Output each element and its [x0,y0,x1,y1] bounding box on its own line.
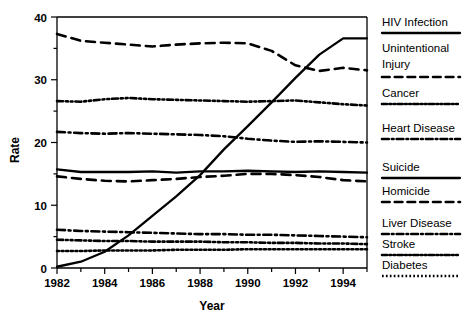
legend-label: Suicide [382,161,420,173]
legend-label: Homicide [382,185,430,197]
y-tick-label: 0 [41,263,47,275]
x-axis-title: Year [199,299,225,313]
y-tick-label: 40 [34,12,47,24]
y-tick-label: 20 [34,137,47,149]
legend-label: Unintentional [382,42,449,54]
y-axis-title: Rate [8,137,22,163]
y-tick-label: 10 [34,200,47,212]
y-tick-label: 30 [34,74,47,86]
legend-label: Diabetes [382,259,428,271]
legend-label: Cancer [382,87,419,99]
legend-label-line2: Injury [382,58,410,70]
x-tick-label: 1988 [187,277,213,289]
x-tick-label: 1986 [140,277,166,289]
legend-label: Liver Disease [382,217,452,229]
legend-label: Heart Disease [382,122,455,134]
x-tick-label: 1990 [235,277,261,289]
legend-label: Stroke [382,238,415,250]
rate-by-cause-line-chart: 010203040 1982198419861988199019921994 R… [0,0,472,325]
legend-label: HIV Infection [382,16,448,28]
x-tick-label: 1994 [330,277,356,289]
x-tick-label: 1992 [283,277,309,289]
x-tick-label: 1984 [92,277,118,289]
x-tick-label: 1982 [44,277,70,289]
